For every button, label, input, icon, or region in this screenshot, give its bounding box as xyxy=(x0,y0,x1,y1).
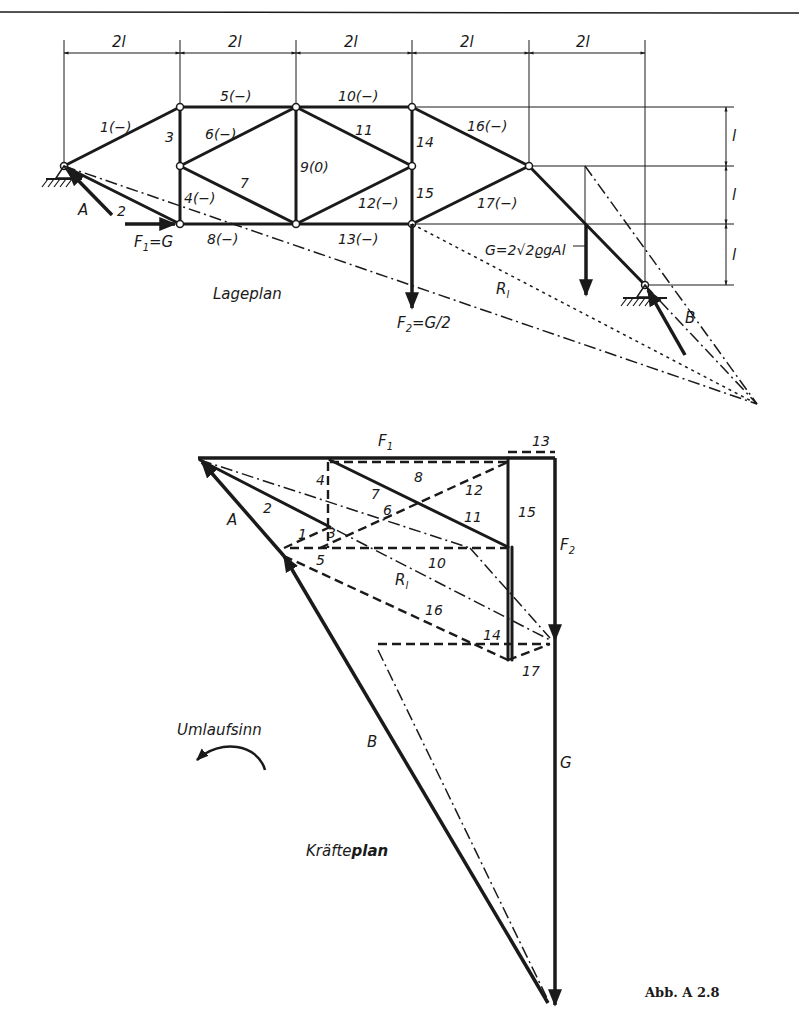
member-16-label: 16(−) xyxy=(467,118,507,134)
counterclockwise-arrow-icon xyxy=(197,747,265,770)
header-rule xyxy=(0,12,799,13)
dim-label-3: 2l xyxy=(344,33,359,51)
vdim-label-3: l xyxy=(732,246,737,264)
kp-b-label: B xyxy=(367,733,377,751)
rotation-label: Umlaufsinn xyxy=(177,721,262,739)
dim-label-5: 2l xyxy=(576,33,591,51)
member-1-label: 1(−) xyxy=(100,119,132,135)
kp-a-label: A xyxy=(226,511,237,529)
kp-17-label: 17 xyxy=(522,663,540,679)
force-b-label: B xyxy=(685,309,695,327)
vdim-label-2: l xyxy=(732,186,737,204)
force-f1-label: F1=G xyxy=(134,233,173,253)
member-6-label: 6(−) xyxy=(205,126,237,142)
resultant-rl-label: Rl xyxy=(496,280,509,300)
member-2-label: 2 xyxy=(117,203,126,219)
kp-3-label: 3 xyxy=(327,525,336,541)
kp-8-label: 8 xyxy=(414,469,423,485)
member-4-label: 4(−) xyxy=(184,190,216,206)
vdim-label-1: l xyxy=(732,127,737,145)
dim-label-4: 2l xyxy=(460,33,475,51)
kp-15-label: 15 xyxy=(518,504,536,520)
member-15-label: 15 xyxy=(416,185,434,201)
lageplan-force-labels: A B F1=G F2=G/2 G=2√2ϱgAl Rl xyxy=(77,201,695,334)
figure-canvas: 2l 2l 2l 2l 2l l l l xyxy=(0,0,799,1021)
force-f2-label: F2=G/2 xyxy=(397,314,451,334)
force-g-label: G=2√2ϱgAl xyxy=(485,242,566,258)
member-10-label: 10(−) xyxy=(338,88,378,104)
kraefteplan-title: Kräfteplan xyxy=(306,842,388,860)
lageplan: 2l 2l 2l 2l 2l l l l xyxy=(42,33,757,404)
kp-2-label: 2 xyxy=(263,500,272,516)
kraefteplan: F1 F2 A B G Rl 1 2 3 4 5 6 7 8 10 11 12 … xyxy=(177,432,575,1005)
member-9-label: 9(0) xyxy=(300,159,329,175)
kp-7-label: 7 xyxy=(371,486,380,502)
kp-6-label: 6 xyxy=(383,502,392,518)
figure-caption: Abb. A 2.8 xyxy=(644,985,720,1000)
kp-4-label: 4 xyxy=(316,472,325,488)
member-5-label: 5(−) xyxy=(220,88,252,104)
kp-5-label: 5 xyxy=(316,552,325,568)
lageplan-title: Lageplan xyxy=(213,285,282,303)
rotation-direction: Umlaufsinn xyxy=(177,721,265,770)
kp-11-label: 11 xyxy=(464,509,482,525)
kp-f2-label: F2 xyxy=(560,536,575,556)
vertical-dimensions: l l l xyxy=(412,107,737,285)
dim-label-1: 2l xyxy=(112,33,127,51)
member-8-label: 8(−) xyxy=(207,231,239,247)
member-11-label: 11 xyxy=(355,122,373,138)
force-plan-labels: F1 F2 A B G Rl 1 2 3 4 5 6 7 8 10 11 12 … xyxy=(226,432,575,772)
force-a-label: A xyxy=(77,201,88,219)
kp-16-label: 16 xyxy=(425,602,443,618)
kp-1-label: 1 xyxy=(298,526,307,542)
kp-10-label: 10 xyxy=(428,555,446,571)
kp-12-label: 12 xyxy=(465,482,483,498)
kp-13-label: 13 xyxy=(532,433,550,449)
kp-rl-label: Rl xyxy=(395,571,408,591)
member-17-label: 17(−) xyxy=(477,195,517,211)
force-a-arrow xyxy=(68,170,112,215)
kp-f1-label: F1 xyxy=(378,432,393,452)
member-12-label: 12(−) xyxy=(358,195,398,211)
member-13-label: 13(−) xyxy=(338,231,378,247)
kp-g-label: G xyxy=(560,754,572,772)
member-3-label: 3 xyxy=(165,129,174,145)
member-14-label: 14 xyxy=(416,134,434,150)
member-7-label: 7 xyxy=(240,175,249,191)
dim-label-2: 2l xyxy=(228,33,243,51)
kp-14-label: 14 xyxy=(483,627,501,643)
